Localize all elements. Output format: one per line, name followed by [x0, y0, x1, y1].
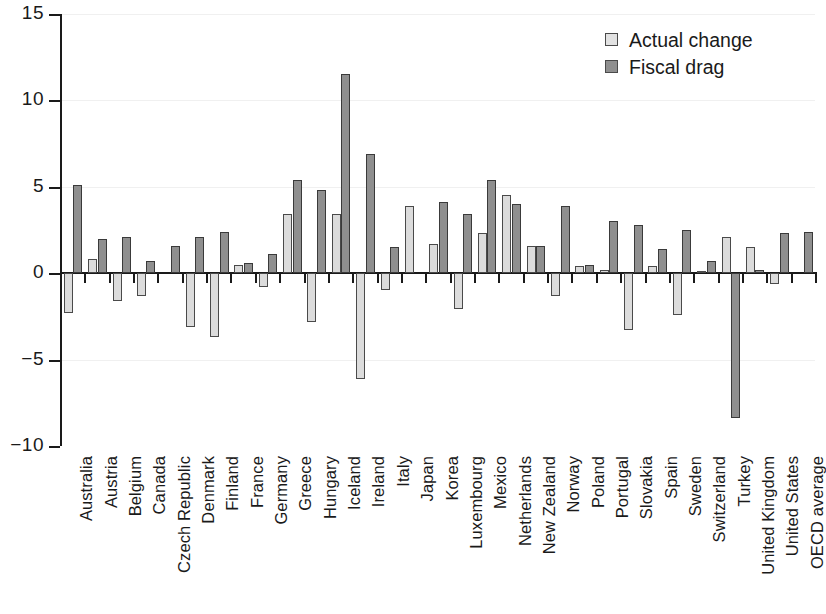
x-axis-label: Austria: [103, 456, 120, 508]
x-axis-tick-mark: [693, 274, 695, 283]
bar: [186, 273, 195, 327]
x-axis-label: Ireland: [370, 456, 387, 507]
x-axis-label: France: [249, 456, 266, 508]
x-axis-tick-mark: [742, 274, 744, 283]
y-axis-tick: 5: [0, 187, 60, 188]
bar: [658, 249, 667, 273]
x-axis-tick-mark: [328, 274, 330, 283]
y-axis-tick-label: 0: [33, 261, 44, 283]
x-axis-label: United States: [784, 456, 801, 556]
x-axis-label: Spain: [663, 456, 680, 499]
bar: [268, 254, 277, 273]
bar: [609, 221, 618, 273]
bar: [536, 246, 545, 274]
x-axis-tick-mark: [669, 274, 671, 283]
x-axis-tick-mark: [596, 274, 598, 283]
x-axis-label: Netherlands: [517, 456, 534, 546]
x-axis-tick-mark: [109, 274, 111, 283]
bar: [575, 266, 584, 273]
y-axis-tick-mark: [49, 446, 60, 448]
bar: [317, 190, 326, 273]
x-axis-label: Sweden: [687, 456, 704, 516]
x-axis-label: Greece: [297, 456, 314, 511]
bar: [634, 225, 643, 273]
bar: [648, 266, 657, 273]
y-axis-tick-label: −5: [21, 348, 44, 370]
x-axis-tick-mark: [815, 274, 817, 283]
x-axis-tick-mark: [766, 274, 768, 283]
bar: [220, 232, 229, 273]
x-axis-label: Norway: [565, 456, 582, 513]
bar: [171, 246, 180, 274]
x-axis-label: Italy: [395, 456, 412, 487]
x-axis-tick-mark: [571, 274, 573, 283]
x-axis-tick-mark: [498, 274, 500, 283]
x-axis-label: Slovakia: [638, 456, 655, 519]
bar: [439, 202, 448, 273]
bar: [341, 74, 350, 273]
bar: [64, 273, 73, 313]
bar: [137, 273, 146, 295]
bar: [88, 259, 97, 273]
y-axis-tick-mark: [49, 187, 60, 189]
bar: [673, 273, 682, 314]
x-axis-label: United Kingdom: [760, 456, 777, 575]
bar: [707, 261, 716, 273]
y-axis-tick-label: 15: [22, 2, 44, 24]
bar: [122, 237, 131, 273]
bar: [259, 273, 268, 287]
x-axis-tick-mark: [352, 274, 354, 283]
x-axis-tick-mark: [791, 274, 793, 283]
x-axis-tick-mark: [279, 274, 281, 283]
x-axis-label: Germany: [273, 456, 290, 525]
legend-item[interactable]: Fiscal drag: [605, 53, 815, 80]
x-axis-tick-mark: [547, 274, 549, 283]
bar: [195, 237, 204, 273]
bar: [234, 265, 243, 274]
x-axis-label: Canada: [151, 456, 168, 514]
y-axis-tick: 10: [0, 100, 60, 101]
x-axis-label: Iceland: [346, 456, 363, 510]
legend-label: Fiscal drag: [629, 56, 724, 78]
bar: [463, 214, 472, 273]
bar: [146, 261, 155, 273]
legend-item[interactable]: Actual change: [605, 26, 815, 53]
bar: [210, 273, 219, 337]
x-axis-label: Hungary: [322, 456, 339, 519]
bar: [585, 265, 594, 274]
bar: [755, 270, 764, 273]
bar: [478, 233, 487, 273]
x-axis-tick-mark: [401, 274, 403, 283]
bar: [429, 244, 438, 273]
bar: [390, 247, 399, 273]
bar: [98, 239, 107, 274]
bar: [697, 271, 706, 273]
x-axis-tick-mark: [182, 274, 184, 283]
bar: [381, 273, 390, 290]
x-axis-label: Belgium: [127, 456, 144, 516]
x-axis-label: New Zealand: [541, 456, 558, 554]
y-axis-tick-mark: [49, 14, 60, 16]
x-axis-tick-mark: [718, 274, 720, 283]
x-axis-label: Turkey: [736, 456, 753, 506]
x-axis-tick-mark: [84, 274, 86, 283]
bar: [551, 273, 560, 295]
legend-label: Actual change: [629, 29, 753, 51]
bar: [746, 247, 755, 273]
bar: [366, 154, 375, 273]
x-axis-tick-mark: [157, 274, 159, 283]
x-axis-label: Finland: [224, 456, 241, 511]
x-axis-tick-mark: [304, 274, 306, 283]
x-axis-label: Poland: [590, 456, 607, 508]
bar: [722, 237, 731, 273]
y-axis-tick-label: 5: [33, 175, 44, 197]
bar: [293, 180, 302, 273]
bar: [682, 230, 691, 273]
x-axis-tick-mark: [230, 274, 232, 283]
bar: [561, 206, 570, 273]
bar: [487, 180, 496, 273]
y-axis-tick: 0: [0, 273, 60, 274]
x-axis-tick-mark: [474, 274, 476, 283]
y-axis-tick-mark: [49, 273, 60, 275]
